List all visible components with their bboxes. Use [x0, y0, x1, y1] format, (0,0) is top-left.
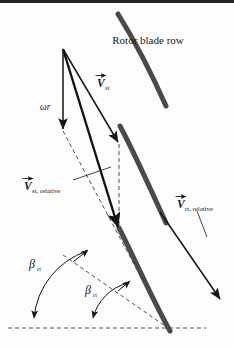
v-st-relative-label-subscript: st, relative [32, 187, 60, 194]
v-st-relative-vector [63, 49, 118, 227]
leader-v-rt-relative [197, 211, 207, 237]
construction-lines-group [8, 131, 206, 328]
beta-rt-upper-subscript: rt [37, 265, 41, 272]
omega-r-label: ωr [40, 102, 51, 112]
v-rt-relative-vector [160, 212, 220, 299]
beta-rt-lower-subscript: rt [93, 291, 97, 298]
beta-rt-upper-symbol: β [28, 257, 35, 271]
angle-arcs-group [34, 250, 130, 318]
v-rt-relative-label: V rt, relative [176, 197, 213, 213]
v-st-label-subscript: st [105, 84, 110, 91]
v-st-label: V st [96, 76, 110, 92]
rotor-blade-row-title: Rotor blade row [112, 34, 184, 46]
beta-rt-upper-label: β rt [28, 257, 41, 272]
rotor-blade-top [118, 14, 166, 106]
beta-rt-upper-arc [34, 251, 87, 318]
v-st-relative-label: V st, relative [23, 179, 61, 195]
velocity-triangle-diagram: Rotor blade row ωr V st V st, relative V… [0, 0, 234, 347]
beta-rt-lower-label: β rt [84, 283, 97, 298]
rotor-blade-middle [120, 126, 166, 223]
v-rt-relative-label-subscript: rt, relative [185, 205, 213, 212]
v-st-vector [63, 49, 118, 142]
beta-rt-lower-symbol: β [84, 283, 91, 297]
dashed-apex-to-baseline [63, 131, 168, 328]
leader-v-st-relative [73, 167, 111, 180]
rotor-blade-bottom [119, 228, 170, 331]
leader-lines-group [73, 167, 207, 237]
figure-root: Rotor blade row ωr V st V st, relative V… [0, 0, 234, 347]
